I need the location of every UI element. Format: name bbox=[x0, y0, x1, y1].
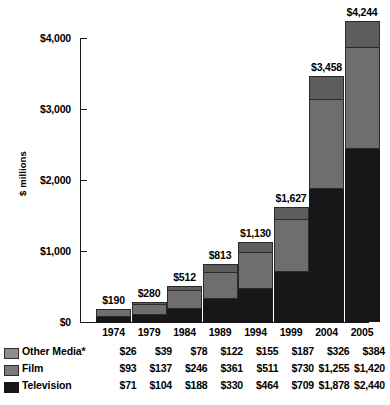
bars-container bbox=[80, 0, 369, 322]
bar-segment-other-media bbox=[345, 21, 380, 48]
table-cell: $1,420 bbox=[341, 362, 385, 374]
y-tick-label: $3,000 bbox=[11, 103, 71, 115]
bar-segment-television bbox=[167, 309, 202, 322]
legend-swatch-other-media bbox=[4, 348, 19, 359]
bar-1974 bbox=[96, 309, 131, 322]
bar-segment-television bbox=[345, 149, 380, 322]
bar-1999 bbox=[274, 207, 309, 322]
bar-segment-television bbox=[203, 299, 238, 322]
data-table: 19741979198419891994199920042005 Other M… bbox=[0, 322, 375, 405]
table-row: Other Media*$26$39$78$122$155$187$326$38… bbox=[0, 345, 375, 362]
table-row: Film$93$137$246$361$511$730$1,255$1,420 bbox=[0, 362, 375, 379]
legend-swatch-film bbox=[4, 365, 19, 376]
bar-segment-television bbox=[132, 315, 167, 322]
table-row: Television$71$104$188$330$464$709$1,878$… bbox=[0, 379, 375, 396]
bar-total-label: $280 bbox=[114, 287, 184, 299]
bar-segment-other-media bbox=[309, 76, 344, 99]
bar-total-label: $512 bbox=[150, 271, 220, 283]
bar-segment-film bbox=[96, 310, 131, 317]
bar-segment-film bbox=[132, 305, 167, 315]
bar-segment-television bbox=[274, 272, 309, 322]
bar-total-label: $1,627 bbox=[256, 192, 326, 204]
y-tick-label: $4,000 bbox=[11, 32, 71, 44]
y-tick-label: $2,000 bbox=[11, 174, 71, 186]
bar-segment-television bbox=[309, 189, 344, 322]
table-cell: $384 bbox=[341, 345, 385, 357]
legend-swatch-television bbox=[4, 382, 19, 393]
table-cell: $2,440 bbox=[341, 379, 385, 391]
bar-segment-television bbox=[238, 289, 273, 322]
plot-area: $ millions $0$1,000$2,000$3,000$4,000 $1… bbox=[0, 0, 375, 330]
bar-segment-film bbox=[309, 100, 344, 189]
bar-total-label: $3,458 bbox=[292, 61, 362, 73]
x-tick-label: 2005 bbox=[340, 326, 384, 338]
bar-total-label: $4,244 bbox=[327, 6, 390, 18]
category-axis-labels: 19741979198419891994199920042005 bbox=[0, 326, 375, 342]
bar-segment-other-media bbox=[274, 207, 309, 220]
bar-total-label: $813 bbox=[185, 249, 255, 261]
bar-total-label: $1,130 bbox=[221, 227, 291, 239]
y-tick-label: $1,000 bbox=[11, 245, 71, 257]
